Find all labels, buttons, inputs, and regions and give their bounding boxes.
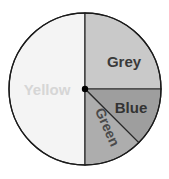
pie-chart: Yellow Grey Blue Green — [0, 0, 169, 179]
label-blue: Blue — [115, 99, 148, 116]
center-dot-icon — [82, 86, 88, 92]
label-yellow: Yellow — [24, 81, 71, 98]
label-grey: Grey — [107, 53, 142, 70]
slice-grey — [85, 13, 161, 89]
